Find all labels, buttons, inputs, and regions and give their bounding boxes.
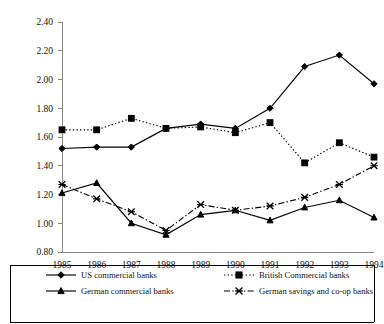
data-point-marker-square [371,154,377,160]
data-point-marker-square [128,115,134,121]
data-point-marker-square [94,127,100,133]
y-axis-tick-label: 2.00 [36,75,53,85]
data-point-marker-square [336,140,342,146]
y-axis: 0.801.001.201.401.601.802.002.202.40 [36,17,62,257]
y-axis-tick-label: 1.40 [36,161,53,171]
legend-entry-label: US commercial banks [81,270,158,280]
data-point-marker-cross [266,203,273,210]
chart-legend: US commercial banksBritish Commercial ba… [10,265,374,322]
series-3 [58,162,377,233]
legend-entry-1[interactable]: British Commercial banks [224,270,350,280]
series-line [62,183,374,235]
series-0 [59,52,377,152]
series-1 [59,115,377,165]
series-2 [59,180,377,238]
x-axis: 1985198619871988198919901991199219931994 [53,252,384,270]
series-line [62,55,374,148]
series-layer [58,52,377,237]
data-point-marker-cross [336,181,343,188]
data-point-marker-triangle [371,214,377,220]
data-point-marker-square [59,127,65,133]
data-point-marker-diamond [58,272,65,279]
data-point-marker-triangle [336,197,342,203]
y-axis-tick-label: 1.60 [36,132,53,142]
y-axis-tick-label: 1.20 [36,190,53,200]
y-axis-tick-label: 0.80 [36,247,53,257]
data-point-marker-diamond [128,144,134,150]
data-point-marker-cross [370,162,377,169]
legend-entry-2[interactable]: German commercial banks [46,286,174,296]
legend-entry-3[interactable]: German savings and co-op banks [224,286,374,296]
data-point-marker-diamond [94,144,100,150]
data-point-marker-square [198,124,204,130]
data-point-marker-diamond [59,145,65,151]
legend-entry-0[interactable]: US commercial banks [46,270,158,280]
data-point-marker-cross [128,208,135,215]
series-line [62,118,374,163]
data-point-marker-cross [197,201,204,208]
data-point-marker-cross [93,196,100,203]
data-point-marker-cross [235,288,243,295]
data-point-marker-square [163,125,169,131]
chart-container: 0.801.001.201.401.601.802.002.202.40 198… [0,0,384,324]
series-line [62,166,374,231]
line-chart: 0.801.001.201.401.601.802.002.202.40 198… [0,0,384,324]
y-axis-tick-label: 2.40 [36,17,53,27]
data-point-marker-cross [301,194,308,201]
y-axis-tick-label: 2.20 [36,46,53,56]
legend-entry-label: British Commercial banks [259,270,350,280]
data-point-marker-triangle [94,180,100,186]
legend-entry-label: German savings and co-op banks [259,286,374,296]
data-point-marker-square [302,160,308,166]
data-point-marker-square [236,272,242,278]
data-point-marker-square [232,130,238,136]
y-axis-tick-label: 1.80 [36,104,53,114]
legend-entry-label: German commercial banks [81,286,174,296]
y-axis-tick-label: 1.00 [36,219,53,229]
data-point-marker-square [267,120,273,126]
